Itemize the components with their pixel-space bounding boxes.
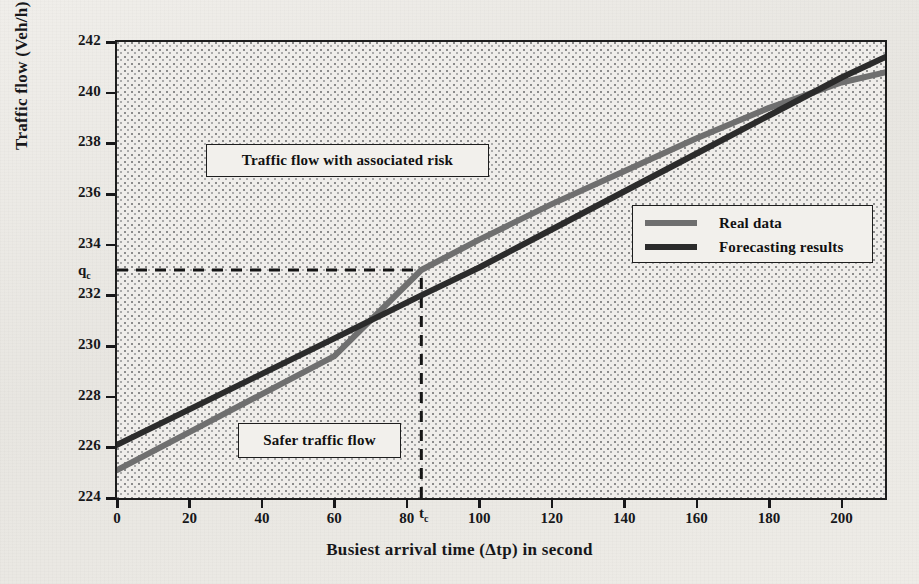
- y-tick-label: 234: [63, 235, 101, 252]
- callout-safe-text: Safer traffic flow: [263, 432, 375, 449]
- y-tick-label: 230: [63, 336, 101, 353]
- chart-figure: Traffic flow (Veh/h) 2242262282302322342…: [0, 0, 919, 584]
- x-tick-mark: [478, 498, 481, 508]
- legend-swatch-real-data: [645, 220, 697, 226]
- x-tick-label: 200: [812, 510, 872, 527]
- legend-entry-real-data: Real data: [633, 211, 872, 235]
- x-tick-mark: [551, 498, 554, 508]
- qc-subscript: c: [86, 270, 90, 281]
- chart-legend: Real data Forecasting results: [632, 205, 873, 263]
- x-tick-label: 0: [87, 510, 147, 527]
- x-tick-mark: [623, 498, 626, 508]
- qc-axis-marker: qc: [78, 262, 91, 281]
- callout-risk-text: Traffic flow with associated risk: [242, 152, 453, 169]
- y-tick-label: 228: [63, 387, 101, 404]
- y-tick-label: 232: [63, 285, 101, 302]
- tc-axis-marker: tc: [419, 505, 428, 524]
- y-tick-label: 238: [63, 133, 101, 150]
- x-tick-label: 120: [522, 510, 582, 527]
- x-tick-label: 180: [739, 510, 799, 527]
- y-tick-label: 224: [63, 488, 101, 505]
- x-tick-label: 40: [232, 510, 292, 527]
- x-tick-mark: [333, 498, 336, 508]
- x-tick-mark: [768, 498, 771, 508]
- legend-swatch-forecasting-results: [645, 244, 697, 250]
- legend-entry-forecasting-results: Forecasting results: [633, 235, 872, 259]
- x-tick-mark: [696, 498, 699, 508]
- x-tick-mark: [116, 498, 119, 508]
- x-tick-label: 140: [594, 510, 654, 527]
- x-tick-label: 100: [449, 510, 509, 527]
- plot-area: [115, 40, 887, 500]
- x-tick-label: 160: [667, 510, 727, 527]
- x-tick-mark: [261, 498, 264, 508]
- callout-risk-zone: Traffic flow with associated risk: [206, 144, 489, 177]
- y-tick-label: 242: [63, 32, 101, 49]
- chart-canvas: [117, 42, 885, 498]
- y-tick-label: 240: [63, 83, 101, 100]
- y-axis-title: Traffic flow (Veh/h): [12, 0, 32, 150]
- x-axis-title: Busiest arrival time (Δtp) in second: [0, 540, 919, 560]
- legend-label-forecasting-results: Forecasting results: [719, 239, 843, 256]
- x-tick-label: 60: [304, 510, 364, 527]
- y-tick-label: 236: [63, 184, 101, 201]
- legend-label-real-data: Real data: [719, 215, 782, 232]
- callout-safe-zone: Safer traffic flow: [238, 423, 401, 458]
- x-tick-mark: [406, 498, 409, 508]
- x-tick-label: 20: [159, 510, 219, 527]
- y-tick-label: 226: [63, 437, 101, 454]
- x-tick-mark: [841, 498, 844, 508]
- tc-subscript: c: [424, 513, 428, 524]
- x-tick-mark: [188, 498, 191, 508]
